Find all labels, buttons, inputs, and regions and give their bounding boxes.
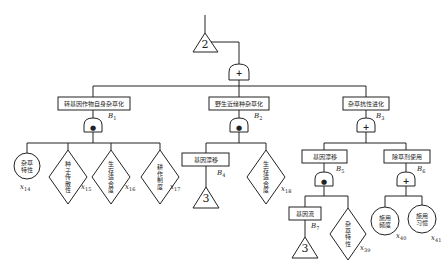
top-gate-symbol: + — [232, 70, 246, 78]
b6-gate-symbol: + — [399, 178, 413, 186]
basic-label-x41: 施用习惯 — [415, 212, 429, 226]
basic-id-x40: x40 — [396, 232, 406, 241]
transfer-label-b4: 3 — [196, 192, 216, 205]
event-id-b7: B7 — [311, 222, 319, 231]
b1-gate-symbol: ● — [86, 124, 100, 132]
b5-gate-symbol: ● — [317, 178, 331, 186]
basic-label-x18: 生存适合度 — [262, 161, 270, 194]
event-id-b5: B5 — [336, 165, 344, 174]
basic-id-x41: x41 — [431, 234, 441, 243]
event-label-b4: 基因漂移 — [182, 156, 229, 163]
b2-gate-symbol: ● — [232, 124, 246, 132]
basic-id-x15: x15 — [81, 183, 91, 192]
event-label-b1: 转基因作物自身杂草化 — [58, 100, 130, 107]
event-label-b5: 基因漂移 — [302, 153, 347, 160]
transfer-label-2: 2 — [195, 38, 215, 51]
basic-id-x16: x16 — [125, 183, 135, 192]
transfer-label-b7: 3 — [295, 242, 315, 255]
event-id-b3: B3 — [376, 112, 384, 121]
connector-to-top-gate — [211, 42, 239, 64]
b3-gate-symbol: + — [359, 124, 373, 132]
event-id-b1: B1 — [108, 112, 116, 121]
event-label-b7: 基因流 — [289, 210, 321, 217]
basic-id-x39: x39 — [360, 244, 370, 253]
event-id-b6: B6 — [417, 165, 425, 174]
event-id-b2: B2 — [254, 112, 262, 121]
basic-label-x40: 施用频度 — [378, 214, 392, 228]
basic-label-x16: 生存适合度 — [107, 161, 115, 194]
basic-id-x18: x18 — [281, 185, 291, 194]
event-id-b4: B4 — [217, 169, 225, 178]
basic-id-x14: x14 — [20, 183, 30, 192]
basic-label-x14: 杂草特性 — [20, 159, 34, 173]
basic-id-x17: x17 — [170, 183, 180, 192]
event-label-b6: 除草剂使用 — [384, 153, 430, 160]
event-label-b3: 杂草抗性进化 — [343, 100, 389, 107]
basic-label-x15: 种子传散性 — [64, 161, 72, 194]
basic-label-x39: 杂草特性 — [344, 221, 352, 247]
event-label-b2: 野生近缘种杂草化 — [209, 100, 269, 107]
basic-label-x17: 耕作制度 — [156, 164, 164, 190]
